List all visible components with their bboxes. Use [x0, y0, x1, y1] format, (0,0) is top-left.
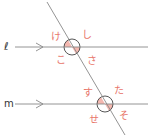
angle-label-so: そ: [119, 111, 129, 121]
line-l-label: ℓ: [4, 41, 9, 52]
angle-label-sa: さ: [87, 56, 97, 66]
line-m-label: m: [4, 98, 14, 109]
angle-label-se: せ: [89, 115, 99, 125]
angle-label-shi: し: [82, 30, 92, 40]
transversal-line: [47, 2, 125, 135]
angle-label-ke: け: [51, 32, 61, 42]
angle-label-ta: た: [114, 86, 124, 96]
angle-label-ko: こ: [56, 55, 66, 65]
angle-label-su: す: [83, 88, 93, 98]
